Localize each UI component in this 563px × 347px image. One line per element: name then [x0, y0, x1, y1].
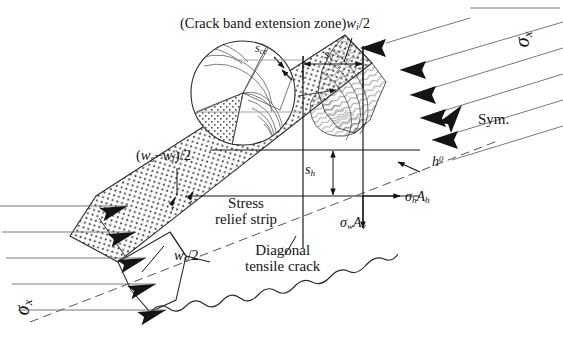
ws-minus-wf-label: (ws−wf)/2	[136, 148, 191, 164]
stress-relief-strip-label: Stress relief strip	[215, 196, 277, 228]
h0-label: h0	[432, 155, 443, 170]
h0-leader-arrow	[398, 162, 420, 172]
sym-label: Sym.	[478, 112, 509, 128]
diagonal-tensile-crack-label: Diagonal tensile crack	[245, 243, 320, 275]
sigma-h-Ah-label: σhAh	[405, 190, 430, 206]
crack-band-extension-zone-label: (Crack band extension zone)wi/2	[180, 16, 370, 32]
sv-label: sv	[324, 47, 333, 62]
sh-label: sh	[305, 163, 315, 179]
figure-canvas: (Crack band extension zone)wi/2 sce sv s…	[0, 0, 563, 347]
sigma-w-Av-label: σwAv	[340, 216, 366, 232]
ws-over-2-label: ws/2	[174, 248, 199, 264]
sce-label: sce	[255, 42, 267, 56]
sigma-x-bottom-label: σx	[12, 300, 35, 316]
diagram-vector-layer	[0, 0, 563, 347]
sigma-x-top-label: σx	[512, 32, 535, 48]
